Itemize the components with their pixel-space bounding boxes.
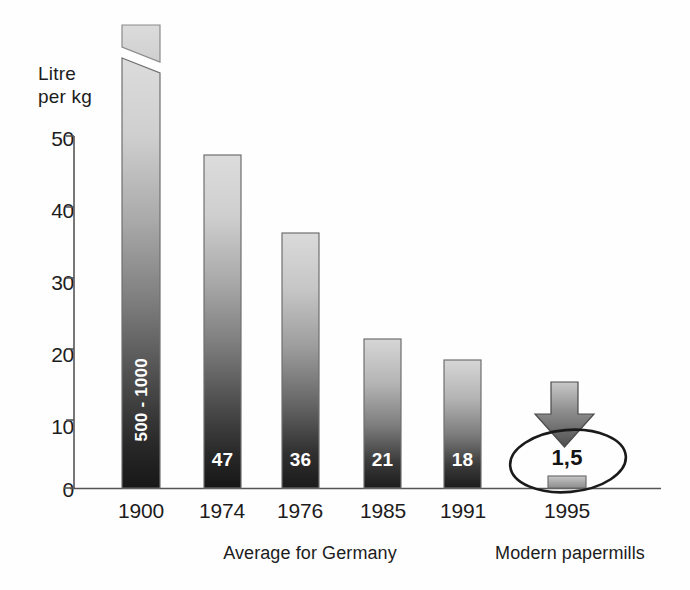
group-caption-modern-papermills: Modern papermills [470,543,670,563]
x-tick-1985: 1985 [338,500,428,521]
bar-1995 [548,476,586,488]
down-arrow-icon [535,382,594,447]
x-tick-1900: 1900 [96,500,186,521]
group-caption-average-germany: Average for Germany [195,543,425,563]
bar-value-1991: 18 [444,450,481,469]
bar-value-1900: 500 - 1000 [132,368,151,442]
x-tick-1995: 1995 [522,500,612,521]
x-tick-1976: 1976 [255,500,345,521]
bar-value-1995: 1,5 [536,448,598,467]
x-tick-1991: 1991 [418,500,508,521]
bar-1974 [204,155,241,488]
water-consumption-bar-chart: Litre per kg 50 40 30 20 10 0 [0,0,690,590]
x-tick-1974: 1974 [177,500,267,521]
bar-value-1976: 36 [282,450,319,469]
bar-value-1985: 21 [364,450,401,469]
bar-value-1974: 47 [204,450,241,469]
